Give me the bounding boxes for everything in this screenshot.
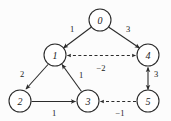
edge-label-1-2: 2	[20, 69, 24, 79]
edge-label-4-5: 3	[154, 69, 158, 79]
node-1-label: 1	[53, 50, 58, 61]
graph-figure: 0 1 4 2 3 5 1 3 −2 2 1 1 3 −1	[0, 0, 171, 121]
edge-0-to-4	[109, 27, 140, 48]
graph-canvas: 0 1 4 2 3 5 1 3 −2 2 1 1 3 −1	[0, 0, 171, 121]
edge-0-to-1	[64, 27, 92, 48]
edge-label-3-1: 1	[79, 70, 83, 80]
node-4-label: 4	[146, 50, 151, 61]
edge-label-1-4: −2	[96, 63, 105, 73]
edge-label-2-3: 1	[52, 108, 56, 118]
edge-label-5-3: −1	[115, 108, 124, 118]
node-5-label: 5	[146, 96, 151, 107]
edge-label-0-1: 1	[70, 24, 74, 34]
edge-label-0-4: 3	[126, 24, 130, 34]
node-3-label: 3	[85, 96, 91, 107]
node-0-label: 0	[98, 15, 103, 26]
edge-1-to-2	[26, 65, 48, 90]
node-2-label: 2	[18, 96, 23, 107]
